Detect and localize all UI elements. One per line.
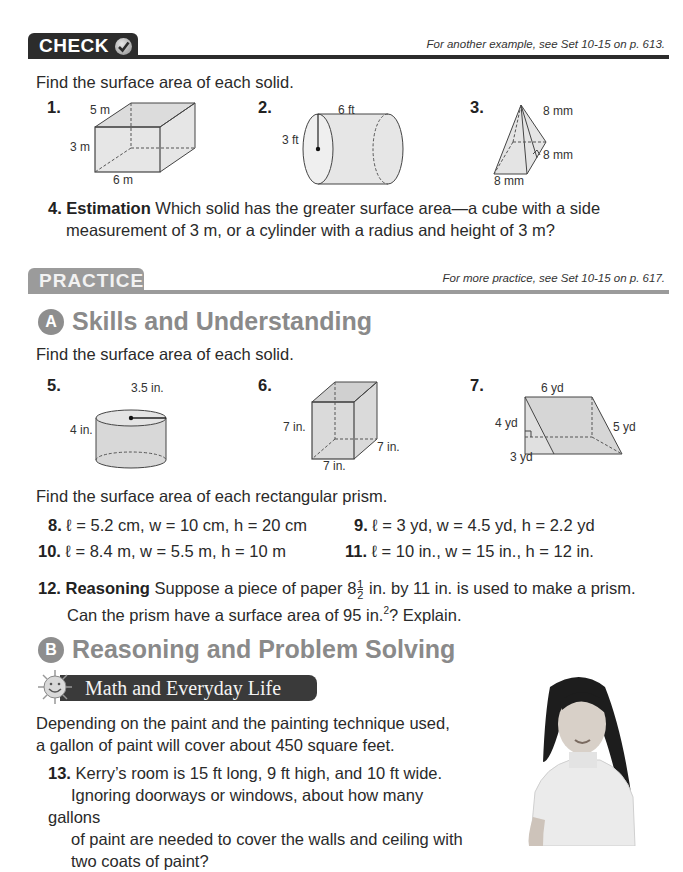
check-reference-note: For another example, see Set 10-15 on p.… [427, 38, 665, 50]
fig2-label-radius: 3 ft [282, 133, 299, 147]
question-12: 12. Reasoning Suppose a piece of paper 8… [38, 577, 678, 626]
problem-number-1: 1. [47, 98, 61, 117]
smiling-sun-icon [38, 670, 72, 704]
check-tab-label: CHECK [39, 35, 109, 57]
fig3-label-side: 8 mm [543, 148, 573, 162]
q4-title: Estimation [66, 199, 150, 217]
section-b-heading: B Reasoning and Problem Solving [38, 635, 455, 664]
practice-tab: PRACTICE [28, 268, 144, 294]
fig1-label-depth: 5 m [90, 103, 110, 117]
fig1-label-length: 6 m [113, 173, 133, 187]
section-a-title: Skills and Understanding [72, 307, 372, 336]
figure-cylinder [300, 112, 410, 187]
question-4: 4. Estimation Which solid has the greate… [48, 197, 648, 241]
figure-triangular-prism [522, 395, 627, 457]
q12-title: Reasoning [66, 579, 150, 597]
section-a-badge: A [38, 309, 64, 335]
problem-number-7: 7. [470, 376, 484, 395]
practice-tab-label: PRACTICE [39, 270, 144, 292]
figure-cylinder-5 [92, 408, 172, 470]
fig7-label-height: 4 yd [495, 416, 518, 430]
problem-number-3: 3. [470, 98, 484, 117]
fig6-label-height: 7 in. [283, 420, 306, 434]
girl-in-white-sweater-photo [505, 672, 655, 846]
check-tab: CHECK [28, 33, 138, 59]
fig7-label-length: 6 yd [541, 381, 564, 395]
check-instruction: Find the surface area of each solid. [36, 71, 294, 93]
problem-8: 8. ℓ = 5.2 cm, w = 10 cm, h = 20 cm [48, 514, 307, 536]
fig3-label-base: 8 mm [494, 174, 524, 188]
section-b-badge: B [38, 637, 64, 663]
math-everyday-life-banner: Math and Everyday Life [60, 675, 317, 701]
figure-cube [310, 380, 380, 460]
section-b-intro: Depending on the paint and the painting … [36, 712, 450, 756]
fraction-one-half: 12 [357, 579, 363, 600]
section-b-title: Reasoning and Problem Solving [72, 635, 455, 664]
fig5-label-radius: 3.5 in. [131, 381, 164, 395]
problem-number-6: 6. [258, 376, 272, 395]
section-a-heading: A Skills and Understanding [38, 307, 372, 336]
section-a-instruction: Find the surface area of each solid. [36, 343, 294, 365]
section-a-instruction-2: Find the surface area of each rectangula… [36, 485, 387, 507]
fig5-label-height: 4 in. [70, 423, 93, 437]
practice-reference-note: For more practice, see Set 10-15 on p. 6… [443, 272, 665, 284]
problem-10: 10. ℓ = 8.4 m, w = 5.5 m, h = 10 m [38, 540, 286, 562]
checkmark-circle-icon [115, 38, 132, 55]
fig6-label-width: 7 in. [323, 459, 346, 473]
fig6-label-depth: 7 in. [377, 440, 400, 454]
fig3-label-slant: 8 mm [543, 104, 573, 118]
fig7-label-base: 3 yd [510, 450, 533, 464]
problem-number-5: 5. [47, 376, 61, 395]
problem-11: 11. ℓ = 10 in., w = 15 in., h = 12 in. [345, 540, 594, 562]
problem-9: 9. ℓ = 3 yd, w = 4.5 yd, h = 2.2 yd [354, 514, 595, 536]
fig2-label-height: 6 ft [338, 103, 355, 117]
problem-number-2: 2. [258, 98, 272, 117]
question-13: 13. Kerry’s room is 15 ft long, 9 ft hig… [48, 762, 478, 872]
fig7-label-hypotenuse: 5 yd [613, 420, 636, 434]
fig1-label-height: 3 m [70, 140, 90, 154]
